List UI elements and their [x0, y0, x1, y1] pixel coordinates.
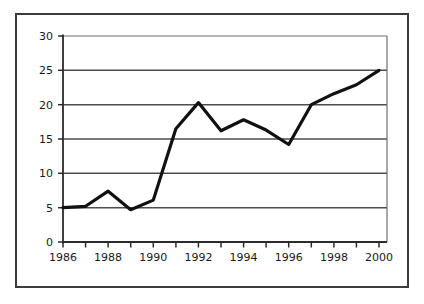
x-axis-label-1992: 1992 [184, 251, 212, 264]
y-axis-label-20: 20 [39, 99, 53, 112]
x-axis-label-1988: 1988 [94, 251, 122, 264]
y-axis-label-5: 5 [46, 202, 53, 215]
x-axis-label-1998: 1998 [320, 251, 348, 264]
gridlines [63, 36, 387, 208]
y-axis-label-15: 15 [39, 133, 53, 146]
x-axis-label-1990: 1990 [139, 251, 167, 264]
y-axis-tick-labels: 0 5 10 15 20 25 30 [39, 30, 53, 249]
x-axis-label-1986: 1986 [49, 251, 77, 264]
chart-figure: 0 5 10 15 20 25 30 1986 1988 1990 1992 1… [0, 0, 424, 304]
x-axis-label-1994: 1994 [230, 251, 258, 264]
y-axis-label-25: 25 [39, 64, 53, 77]
y-axis-label-10: 10 [39, 167, 53, 180]
x-axis-label-1996: 1996 [275, 251, 303, 264]
line-chart: 0 5 10 15 20 25 30 1986 1988 1990 1992 1… [0, 0, 424, 304]
x-axis-label-2000: 2000 [365, 251, 393, 264]
y-axis-label-0: 0 [46, 236, 53, 249]
x-axis-tick-labels: 1986 1988 1990 1992 1994 1996 1998 2000 [49, 251, 393, 264]
y-axis-label-30: 30 [39, 30, 53, 43]
data-series-line [63, 70, 379, 209]
